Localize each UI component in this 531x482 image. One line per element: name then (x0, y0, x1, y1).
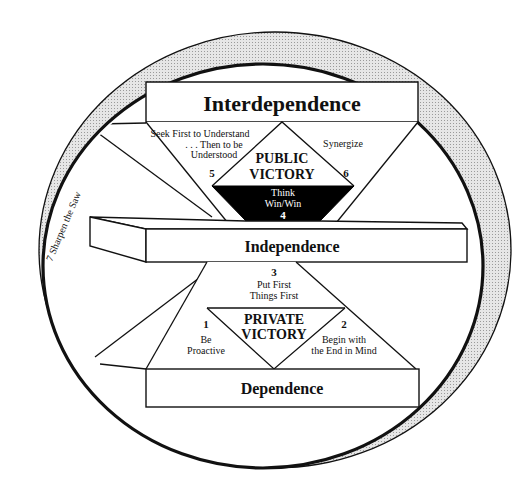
habit-4-number: 4 (280, 209, 286, 221)
habit-2-line1: Begin with (322, 334, 366, 345)
habit-3-number: 3 (271, 266, 277, 278)
private-victory-line2: VICTORY (241, 327, 306, 342)
habit-5-number: 5 (209, 167, 215, 179)
habit-5-line1: Seek First to Understand (150, 128, 249, 139)
habit-3-line1: Put First (257, 279, 291, 290)
habit-3-line2: Things First (250, 290, 299, 301)
seven-habits-diagram: 7 Sharpen the Saw Interdependence PUBLIC… (0, 0, 531, 482)
public-victory-line1: PUBLIC (256, 151, 309, 166)
interdependence-box: Interdependence (146, 82, 418, 122)
habit-6-number: 6 (343, 167, 349, 179)
habit-4-line1: Think (271, 187, 295, 198)
habit-2-number: 2 (341, 318, 347, 330)
independence-box: Independence (90, 217, 467, 262)
habit-1-number: 1 (203, 318, 209, 330)
habit-2-line2: the End in Mind (311, 345, 376, 356)
interdependence-title: Interdependence (203, 91, 361, 116)
habit-1-line1: Be (200, 334, 212, 345)
public-victory-line2: VICTORY (249, 167, 314, 182)
habit-1-line2: Proactive (187, 345, 225, 356)
dependence-box: Dependence (146, 369, 419, 407)
dependence-title: Dependence (241, 380, 324, 398)
habit-4-line2: Win/Win (265, 198, 301, 209)
private-victory-line1: PRIVATE (244, 312, 304, 327)
independence-title: Independence (244, 238, 339, 256)
habit-6-label: Synergize (323, 138, 363, 149)
habit-5-line3: Understood (191, 149, 238, 160)
